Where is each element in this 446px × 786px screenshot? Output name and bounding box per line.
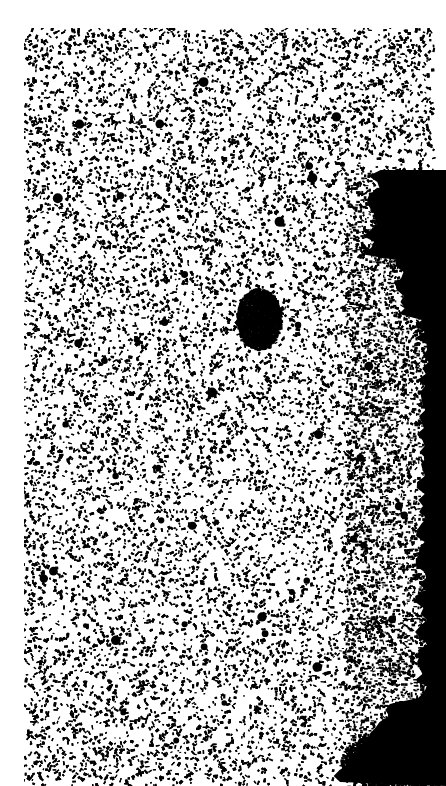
texture-canvas <box>0 0 446 786</box>
speckle-texture-image <box>0 0 446 786</box>
